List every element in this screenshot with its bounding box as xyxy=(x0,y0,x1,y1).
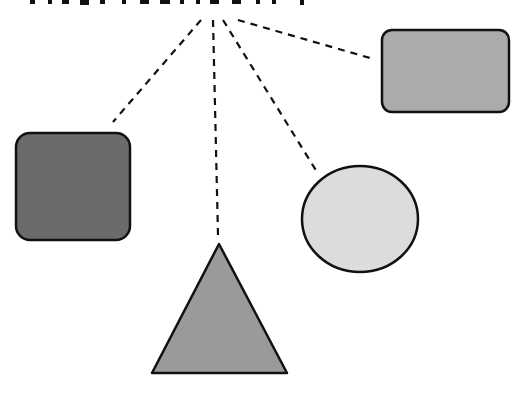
connector-to-triangle xyxy=(213,20,218,235)
triangle-shape xyxy=(152,244,287,373)
circle-shape xyxy=(302,166,418,272)
connector-to-dark-square xyxy=(113,20,201,122)
connector-to-right-rect xyxy=(238,20,370,58)
dark-square-shape xyxy=(16,133,130,240)
diagram-canvas xyxy=(0,0,531,398)
right-rectangle-shape xyxy=(382,30,509,112)
connector-to-circle xyxy=(223,20,317,172)
title-glyph-fragments xyxy=(30,0,304,5)
